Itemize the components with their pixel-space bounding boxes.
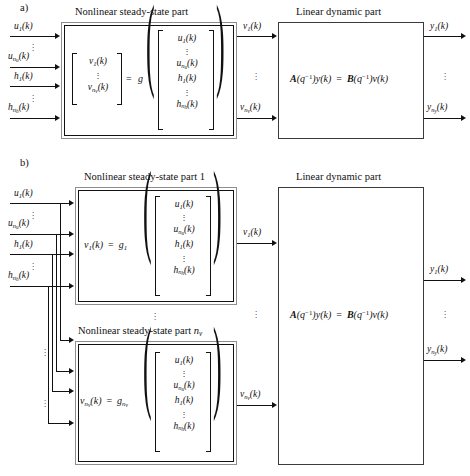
panel-a-output-arrow-yny [461, 115, 466, 121]
panel-b-equation-1-lhs: v1(k) = g1 [84, 240, 127, 252]
panel-b-bracket-left-1 [155, 196, 160, 296]
panel-b-linear-block [278, 187, 424, 465]
panel-a-nonlinear-title: Nonlinear steady-state part [75, 7, 188, 18]
panel-b-nonlinear-title-n-text: Nonlinear steady-state part [78, 325, 194, 336]
panel-b-bus-arrow-unu [69, 368, 74, 374]
panel-b-input-dots-u: ... [28, 209, 38, 218]
panel-a-mid-label-vnv: vnv(k) [240, 103, 260, 114]
panel-b-vector-n: u1(k) ⋮ unu(k) h1(k) ⋮ hnh(k) [161, 355, 207, 436]
panel-a-output-arrow-y1 [461, 33, 466, 39]
panel-b-bracket-right-1 [206, 196, 211, 296]
panel-a-lhs-bracket-left [72, 53, 77, 105]
panel-b-input-arrow-u1 [69, 200, 74, 206]
panel-b-output-dots: ... [440, 308, 450, 317]
panel-b-paren-left-n: ( [143, 307, 152, 427]
panel-b-input-label-unu: unu(k) [8, 219, 29, 230]
panel-a-input-arrow-u1 [55, 33, 60, 39]
panel-b-linear-title: Linear dynamic part [296, 172, 381, 183]
panel-a-output-label-yny: yny(k) [427, 103, 447, 114]
panel-a-tag: a) [20, 3, 28, 14]
panel-b-input-line-u1 [10, 203, 70, 204]
panel-a-mid-label-v1: v1(k) [243, 22, 261, 32]
panel-b-output-arrow-yny [461, 357, 466, 363]
panel-a-output-label-y1: y1(k) [430, 22, 448, 32]
panel-a-equals: = [126, 74, 132, 84]
panel-a-mid-arrow-vnv [272, 115, 277, 121]
panel-b-output-label-y1: y1(k) [430, 265, 448, 275]
panel-b-bus-line-u1 [60, 203, 61, 340]
panel-a-paren-right: ) [216, 0, 225, 105]
panel-b-bus-dots-u: ... [40, 346, 50, 355]
panel-b-bus-feed-unu [56, 371, 70, 372]
panel-b-mid-arrow-vnv [272, 402, 277, 408]
panel-a-input-label-h1: h1(k) [14, 72, 33, 82]
panel-b-mid-label-v1: v1(k) [243, 228, 261, 238]
panel-b-bus-arrow-u1 [69, 337, 74, 343]
panel-b-input-label-u1: u1(k) [14, 189, 33, 199]
panel-b-equation-n-lhs: vnv(k) = gnv [80, 396, 128, 409]
panel-b-input-dots-h: ... [28, 260, 38, 269]
panel-a-input-dots-h: ... [28, 92, 38, 101]
panel-b-output-line-y1 [424, 280, 462, 281]
panel-a-rhs-bracket-left [158, 30, 163, 130]
panel-a-output-line-y1 [424, 36, 462, 37]
panel-b-vector-1: u1(k) ⋮ unu(k) h1(k) ⋮ hnh(k) [161, 199, 207, 280]
panel-b-output-arrow-y1 [461, 277, 466, 283]
panel-a-input-line-h1 [10, 86, 56, 87]
panel-b-bus-arrow-h1 [69, 388, 74, 394]
panel-a-input-arrow-h1 [55, 83, 60, 89]
panel-a-lhs-vector: v1(k) ⋮ vnv(k) [78, 56, 118, 97]
panel-a-rhs-vector: u1(k) ⋮ unu(k) h1(k) ⋮ hnh(k) [164, 33, 210, 114]
panel-b-input-arrow-hnh [69, 283, 74, 289]
panel-a-input-line-unu [10, 67, 56, 68]
panel-a-linear-title: Linear dynamic part [296, 7, 381, 18]
panel-b-bracket-left-n [155, 352, 160, 452]
panel-a-mid-line-v1 [237, 36, 273, 37]
panel-a-mid-line-vnv [237, 118, 273, 119]
panel-a-mid-dots: ... [251, 70, 261, 79]
panel-a-linear-equation: A(q−1)y(k) = B(q−1)v(k) [290, 74, 388, 84]
panel-a-input-arrow-hnh [55, 115, 60, 121]
panel-b-input-arrow-h1 [69, 251, 74, 257]
panel-b-mid-line-vnv [237, 405, 273, 406]
panel-b-input-label-h1: h1(k) [14, 240, 33, 250]
panel-b-linear-equation: A(q−1)y(k) = B(q−1)v(k) [290, 310, 388, 320]
panel-b-paren-left-1: ( [143, 151, 152, 271]
panel-b-mid-line-v1 [237, 243, 273, 244]
panel-b-paren-right-n: ) [213, 307, 222, 427]
panel-b-mid-arrow-v1 [272, 240, 277, 246]
panel-b-bus-line-unu [56, 234, 57, 371]
panel-b-bracket-right-n [206, 352, 211, 452]
panel-a-mid-arrow-v1 [272, 33, 277, 39]
panel-b-paren-right-1: ) [213, 151, 222, 271]
panel-a-g-symbol: g [138, 74, 143, 84]
panel-b-mid-label-vnv: vnv(k) [240, 390, 260, 401]
panel-b-input-label-hnh: hnh(k) [8, 271, 29, 282]
panel-a-paren-left: ( [146, 0, 155, 105]
panel-b-tag: b) [20, 158, 29, 169]
panel-a-lhs-bracket-right [117, 53, 122, 105]
panel-a-input-label-unu: unu(k) [8, 52, 29, 63]
panel-b-output-line-yny [424, 360, 462, 361]
panel-a-input-line-hnh [10, 118, 56, 119]
panel-b-bus-arrow-hnh [69, 420, 74, 426]
panel-a-rhs-bracket-right [209, 30, 214, 130]
panel-a-input-arrow-unu [55, 64, 60, 70]
panel-b-bus-feed-hnh [48, 423, 70, 424]
panel-a-input-label-u1: u1(k) [14, 22, 33, 32]
panel-b-input-arrow-unu [69, 231, 74, 237]
panel-b-bus-line-h1 [52, 254, 53, 391]
panel-a-input-label-hnh: hnh(k) [8, 103, 29, 114]
panel-b-input-line-unu [10, 234, 70, 235]
panel-b-nonlinear-title-n: Nonlinear steady-state part nv [78, 326, 202, 338]
panel-a-output-dots: ... [440, 70, 450, 79]
panel-b-mid-dots: ... [251, 308, 261, 317]
panel-b-input-line-hnh [10, 286, 70, 287]
panel-b-output-label-yny: yny(k) [427, 345, 447, 356]
panel-a-output-line-yny [424, 118, 462, 119]
panel-b-bus-feed-h1 [52, 391, 70, 392]
panel-b-bus-dots-h: ... [40, 397, 50, 406]
panel-b-input-line-h1 [10, 254, 70, 255]
panel-a-input-dots-u: ... [28, 41, 38, 50]
